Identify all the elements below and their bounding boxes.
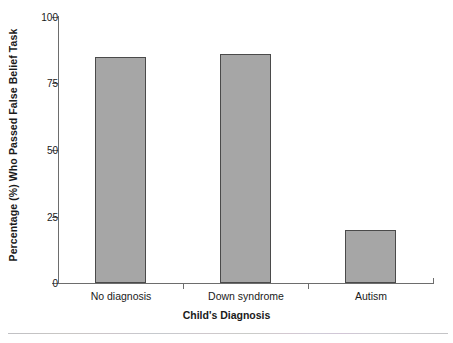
- x-tick-mark-1: [183, 284, 184, 289]
- x-tick-end-cap: [433, 278, 434, 284]
- bar-no-diagnosis[interactable]: [95, 57, 146, 283]
- x-tick-mark-2: [308, 284, 309, 289]
- chart-page: Percentage (%) Who Passed False Belief T…: [0, 0, 453, 343]
- y-axis-ticks: 100 75 50 25 0: [0, 0, 58, 343]
- y-tick-label-25: 25: [10, 212, 58, 223]
- y-tick-label-0: 0: [10, 278, 58, 289]
- x-axis-line: [58, 283, 434, 284]
- y-tick-label-75: 75: [10, 78, 58, 89]
- page-divider: [8, 333, 448, 334]
- bar-down-syndrome[interactable]: [220, 54, 271, 283]
- x-tick-label-no-diagnosis: No diagnosis: [91, 290, 152, 302]
- y-tick-label-100: 100: [10, 12, 58, 23]
- x-tick-label-autism: Autism: [355, 290, 387, 302]
- x-tick-start-cap: [58, 278, 59, 284]
- x-axis-title: Child's Diagnosis: [0, 309, 453, 321]
- x-tick-label-down-syndrome: Down syndrome: [208, 290, 284, 302]
- y-tick-label-50: 50: [10, 145, 58, 156]
- bars-layer: [58, 17, 433, 283]
- bar-autism[interactable]: [345, 230, 396, 283]
